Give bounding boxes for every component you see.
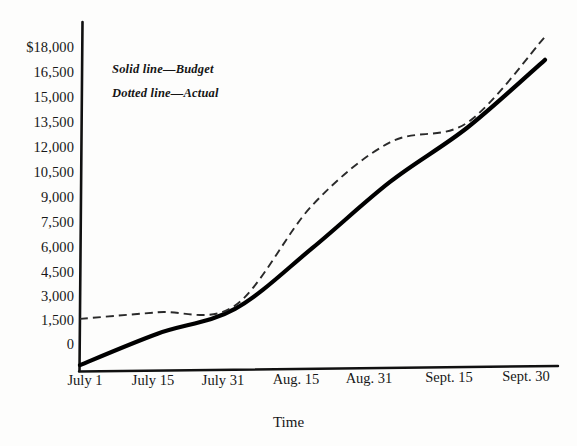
y-tick-label: 15,000	[2, 90, 74, 104]
x-tick-label: Aug. 15	[273, 372, 320, 387]
legend-dotted-actual: Dotted line—Actual	[112, 86, 219, 101]
y-tick-label: 1,500	[2, 313, 74, 327]
y-tick-label: 10,500	[2, 165, 74, 179]
y-tick-label: 7,500	[2, 215, 74, 229]
y-tick-label: 9,000	[2, 190, 74, 204]
y-tick-label: 12,000	[2, 140, 74, 154]
y-tick-label: 6,000	[2, 240, 74, 254]
series-line-actual	[80, 37, 545, 319]
x-tick-label: Aug. 31	[346, 371, 393, 386]
x-tick-label: July 15	[132, 373, 174, 388]
y-tick-label: 4,500	[2, 265, 74, 279]
x-tick-label: Sept. 30	[502, 369, 550, 384]
y-tick-label: $18,000	[2, 40, 74, 54]
y-axis-tick-labels: $18,000 16,500 15,000 13,500 12,000 10,5…	[0, 0, 74, 446]
x-tick-label: Sept. 15	[425, 370, 473, 385]
x-tick-label: July 1	[67, 373, 102, 388]
x-tick-label: July 31	[202, 373, 244, 388]
y-tick-label: 0	[2, 337, 74, 351]
legend-solid-budget: Solid line—Budget	[112, 62, 214, 77]
y-tick-label: 3,000	[2, 289, 74, 303]
y-tick-label: 16,500	[2, 65, 74, 79]
chart-figure: $18,000 16,500 15,000 13,500 12,000 10,5…	[0, 0, 577, 446]
y-tick-label: 13,500	[2, 115, 74, 129]
series-line-budget	[80, 60, 545, 365]
x-axis-title: Time	[0, 414, 577, 431]
